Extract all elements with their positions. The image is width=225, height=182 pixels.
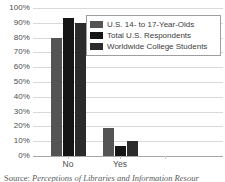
y-axis-tick-label: 20% <box>0 122 30 130</box>
legend-swatch <box>90 32 103 39</box>
y-axis-tick-label: 0% <box>0 152 30 160</box>
y-axis-tick-label: 10% <box>0 137 30 145</box>
legend-label: Total U.S. Respondents <box>107 31 191 40</box>
source-label: Source: <box>4 173 30 182</box>
y-axis-tick-label: 100% <box>0 4 30 12</box>
x-axis-tick-mark <box>68 156 69 159</box>
y-axis-tick-label: 80% <box>0 34 30 42</box>
bar-group <box>51 8 86 156</box>
y-axis-tick-label: 90% <box>0 19 30 27</box>
bar <box>103 128 114 156</box>
x-axis-tick-mark <box>165 156 166 159</box>
y-axis-tick-label: 30% <box>0 108 30 116</box>
y-axis-tick-label: 50% <box>0 78 30 86</box>
x-axis-tick-label: Yes <box>95 160 145 169</box>
bar <box>63 18 74 156</box>
x-axis-tick-mark <box>120 156 121 159</box>
chart-legend: U.S. 14- to 17-Year-OldsTotal U.S. Respo… <box>86 15 221 56</box>
x-axis-line <box>33 156 223 157</box>
legend-swatch <box>90 43 103 50</box>
bar-chart: 0%10%20%30%40%50%60%70%80%90%100% NoYes … <box>0 0 225 182</box>
legend-item: Total U.S. Respondents <box>90 30 216 41</box>
bar <box>127 141 138 156</box>
legend-label: Worldwide College Students <box>107 42 207 51</box>
x-axis-tick-label: No <box>43 160 93 169</box>
source-caption: Source: Perceptions of Libraries and Inf… <box>4 173 225 182</box>
y-axis-tick-label: 70% <box>0 48 30 56</box>
legend-item: U.S. 14- to 17-Year-Olds <box>90 19 216 30</box>
y-axis-tick-label: 60% <box>0 63 30 71</box>
bar <box>115 146 126 156</box>
legend-item: Worldwide College Students <box>90 41 216 52</box>
legend-label: U.S. 14- to 17-Year-Olds <box>107 20 194 29</box>
source-text: Perceptions of Libraries and Information… <box>32 173 199 182</box>
legend-swatch <box>90 21 103 28</box>
y-axis-tick-label: 40% <box>0 93 30 101</box>
bar <box>75 23 86 156</box>
bar <box>51 38 62 156</box>
